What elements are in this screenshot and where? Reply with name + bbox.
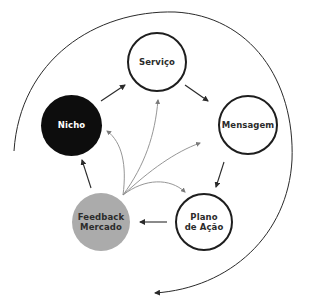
node-plano-label-2: de Ação — [185, 222, 224, 233]
node-nicho-label: Nicho — [58, 120, 85, 131]
arrow-mensagem-to-plano — [216, 162, 224, 187]
node-mensagem: Mensagem — [218, 95, 278, 155]
arrow-feedback-to-servico-curve — [123, 100, 158, 195]
arrow-feedback-to-nicho — [82, 160, 91, 188]
arrow-feedback-to-plano-curve — [123, 182, 185, 195]
node-plano-de-acao: Plano de Ação — [175, 193, 233, 251]
node-nicho: Nicho — [41, 95, 102, 156]
node-feedback-label-2: Mercado — [80, 222, 122, 233]
node-servico-label: Serviço — [139, 57, 175, 68]
node-feedback-mercado: Feedback Mercado — [72, 193, 130, 251]
arrow-servico-to-mensagem — [185, 85, 208, 101]
node-plano-label-1: Plano — [190, 212, 217, 223]
node-mensagem-label: Mensagem — [222, 120, 275, 131]
node-servico: Serviço — [127, 32, 187, 92]
arrow-feedback-to-nicho-curve — [107, 131, 124, 195]
arrow-nicho-to-servico — [101, 85, 125, 101]
node-feedback-label-1: Feedback — [78, 212, 124, 223]
